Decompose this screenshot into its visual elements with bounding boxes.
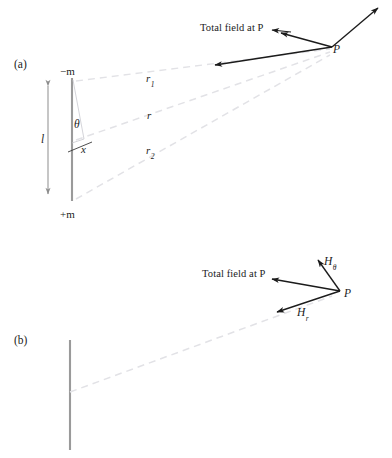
h-r-subscript: r [306, 314, 309, 323]
h-theta-subscript: θ [333, 263, 337, 272]
h-theta-base: H [324, 255, 332, 267]
panel-a-graphics [48, 8, 378, 201]
positive-pole-sign: +m [60, 208, 75, 220]
total-field-caption-a: Total field at P [200, 23, 264, 34]
point-p-label-b: P [344, 288, 351, 300]
positive-pole-label: +m [60, 209, 75, 220]
ray-r1-base: r [146, 72, 150, 84]
caption-leader-arrow-a [272, 30, 291, 32]
h-theta-label: Hθ [324, 256, 336, 270]
point-p-label-a: P [333, 44, 340, 56]
vector-total-field-a [281, 33, 332, 47]
negative-pole-sign: −m [60, 65, 75, 77]
ray-r-label: r [147, 110, 151, 121]
ray-r1-subscript: 1 [151, 80, 155, 89]
ray-r2-base: r [146, 144, 150, 156]
figure-canvas [0, 0, 392, 458]
x-offset-label: x [81, 144, 86, 155]
total-field-caption-b: Total field at P [202, 269, 266, 280]
negative-pole-label: −m [60, 66, 75, 77]
vector-total-field-b [272, 279, 340, 291]
h-r-base: H [297, 306, 305, 318]
panel-b-tag: (b) [14, 335, 27, 347]
panel-b-graphics [70, 260, 340, 450]
panel-a-tag: (a) [14, 59, 27, 71]
ray-r1-label: r1 [146, 73, 154, 87]
figure-root: (a) Total field at P P −m +m l θ x r1 r … [0, 0, 392, 458]
theta-angle-label: θ [74, 119, 80, 131]
length-label: l [41, 134, 44, 146]
ray-r-dashed-b [70, 296, 332, 392]
vector-radial-a [215, 47, 332, 65]
ray-r2-label: r2 [146, 145, 154, 159]
vector-h-r [277, 291, 340, 312]
ray-r2-subscript: 2 [151, 152, 155, 161]
h-r-label: Hr [297, 307, 308, 321]
vector-outgoing-a [332, 8, 378, 47]
